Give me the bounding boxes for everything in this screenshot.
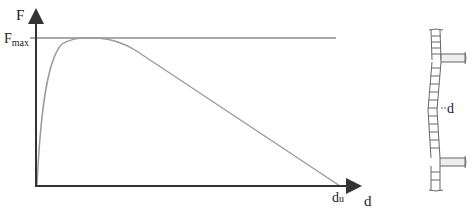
wall-d-label: d [447, 101, 454, 116]
force-displacement-curve [37, 38, 340, 186]
du-label: du [332, 190, 344, 205]
x-axis-label: d [364, 193, 372, 209]
force-displacement-diagram: F Fmax du d d [0, 0, 476, 216]
y-axis-label: F [16, 7, 24, 23]
fmax-label: Fmax [4, 31, 29, 48]
